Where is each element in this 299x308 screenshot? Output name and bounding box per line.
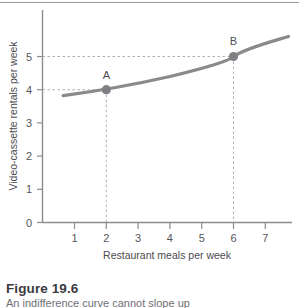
x-tick-label-1: 1 (71, 232, 77, 244)
data-point-a-marker (102, 85, 111, 94)
figure-caption-subtitle: An indifference curve cannot slope up (6, 297, 296, 308)
indifference-curve-chart: 0 1 2 3 4 5 1 2 3 4 5 6 7 (0, 0, 299, 268)
y-tick-label-4: 4 (26, 84, 32, 96)
x-tick-label-5: 5 (199, 232, 205, 244)
figure-region: 0 1 2 3 4 5 1 2 3 4 5 6 7 (0, 0, 299, 268)
x-axis-title: Restaurant meals per week (103, 249, 232, 261)
guide-lines (43, 57, 234, 223)
y-axis-title: Video-cassette rentals per week (7, 41, 19, 191)
data-point-labels: A B (103, 35, 238, 81)
x-tick-label-2: 2 (103, 232, 109, 244)
x-tick-label-6: 6 (230, 232, 236, 244)
figure-caption-title: Figure 19.6 (6, 281, 296, 296)
chart-axes (42, 10, 292, 223)
data-point-a-label: A (103, 69, 111, 81)
x-tick-label-3: 3 (135, 232, 141, 244)
y-tick-label-0: 0 (26, 217, 32, 229)
y-tick-label-3: 3 (26, 117, 32, 129)
x-tick-label-4: 4 (167, 232, 173, 244)
x-axis-tick-labels: 1 2 3 4 5 6 7 (71, 232, 268, 244)
y-axis-ticks (37, 57, 43, 223)
indifference-curve-path (63, 37, 288, 96)
figure-caption: Figure 19.6 An indifference curve cannot… (6, 281, 296, 308)
data-point-b-label: B (230, 35, 237, 47)
y-axis-tick-labels: 0 1 2 3 4 5 (26, 51, 32, 229)
x-axis-ticks (75, 223, 266, 230)
y-tick-label-5: 5 (26, 51, 32, 63)
y-tick-label-1: 1 (26, 183, 32, 195)
x-tick-label-7: 7 (262, 232, 268, 244)
data-point-b-marker (229, 52, 238, 61)
y-tick-label-2: 2 (26, 150, 32, 162)
